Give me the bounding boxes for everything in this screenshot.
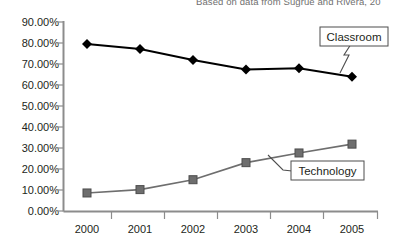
data-point-marker (189, 176, 197, 184)
y-tick-label: 20.00% (22, 163, 60, 175)
x-tick-label: 2003 (234, 223, 258, 235)
y-tick-label: 70.00% (22, 58, 60, 70)
series-classroom (82, 39, 357, 82)
x-tick-label: 2000 (75, 223, 99, 235)
data-point-marker (294, 63, 304, 73)
data-point-marker (82, 39, 92, 49)
y-tick-label: 50.00% (22, 100, 60, 112)
classroom-line (87, 44, 352, 77)
line-chart: Based on data from Sugrue and Rivera, 20… (0, 0, 398, 239)
y-tick-label: 40.00% (22, 121, 60, 133)
x-tick-label: 2001 (128, 223, 152, 235)
y-tick-label: 10.00% (22, 184, 60, 196)
data-point-marker (348, 140, 356, 148)
callout-classroom: Classroom (320, 27, 388, 73)
data-point-marker (188, 55, 198, 65)
data-point-marker (242, 159, 250, 167)
y-tick-label: 90.00% (22, 16, 60, 28)
data-point-marker (136, 186, 144, 194)
callout-technology: Technology (268, 155, 364, 180)
x-tick-label: 2005 (340, 223, 364, 235)
data-point-marker (295, 149, 303, 157)
data-point-marker (241, 65, 251, 75)
chart-canvas: 90.00% 80.00% 70.00% 60.00% 50.00% 40.00… (0, 0, 398, 239)
y-tick-label: 60.00% (22, 79, 60, 91)
x-tick-label: 2002 (181, 223, 205, 235)
data-point-marker (135, 44, 145, 54)
classroom-callout-label: Classroom (327, 31, 382, 43)
data-point-marker (83, 189, 91, 197)
y-tick-label: 80.00% (22, 37, 60, 49)
y-tick-label: 30.00% (22, 142, 60, 154)
data-point-marker (347, 72, 357, 82)
x-tick-label: 2004 (287, 223, 311, 235)
classroom-markers (82, 39, 357, 82)
y-tick-label: 0.00% (28, 205, 59, 217)
technology-callout-label: Technology (298, 165, 356, 177)
